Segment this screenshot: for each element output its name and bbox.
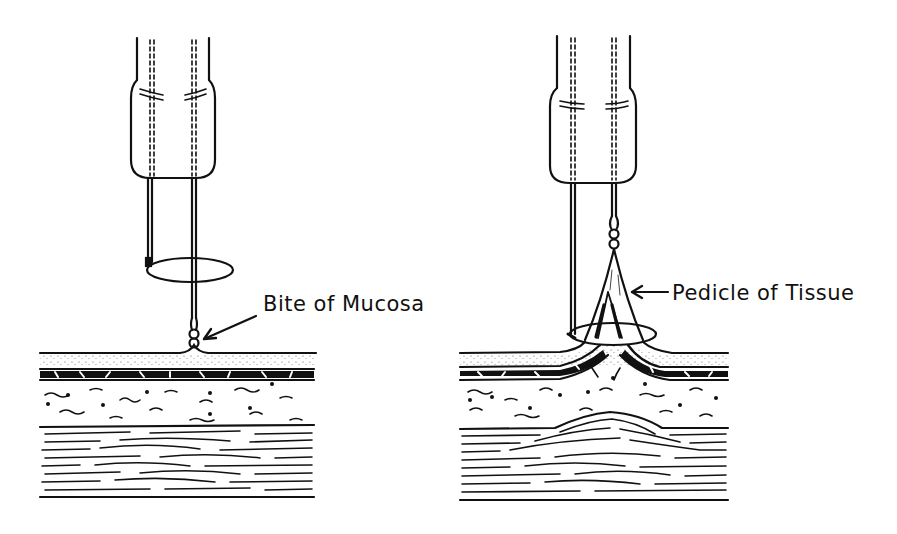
instrument-tube-icon <box>131 38 215 178</box>
snare-wires-icon <box>146 178 233 348</box>
left-panel <box>40 38 316 497</box>
arrow-bite-icon <box>204 316 256 339</box>
muscle-layer-texture <box>462 419 726 492</box>
submucosa-texture <box>45 388 302 422</box>
instrument-tube-icon <box>550 36 636 183</box>
muscle-layer-texture <box>42 431 312 490</box>
right-panel <box>460 36 728 500</box>
arrow-pedicle-icon <box>632 286 668 298</box>
figure-drawing <box>0 0 897 534</box>
mucosa-surface <box>40 345 316 353</box>
muscularis-band <box>40 369 314 380</box>
label-pedicle-of-tissue: Pedicle of Tissue <box>672 281 855 305</box>
illustration-canvas: Bite of Mucosa Pedicle of Tissue <box>0 0 897 534</box>
label-bite-of-mucosa: Bite of Mucosa <box>263 292 425 316</box>
